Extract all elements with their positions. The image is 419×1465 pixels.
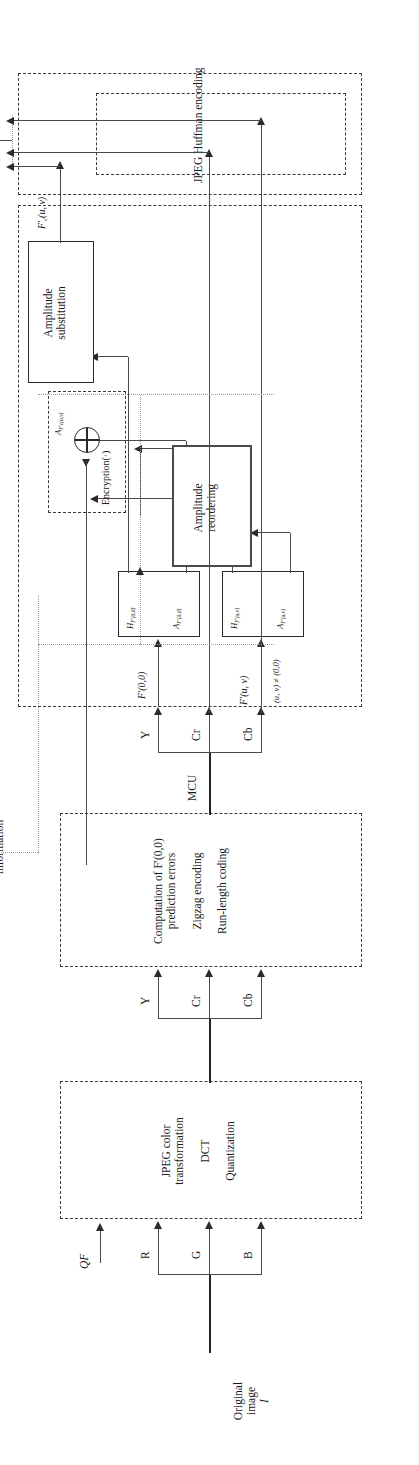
ycc-arrow-cb-1 bbox=[257, 969, 265, 977]
output-stem bbox=[0, 140, 12, 141]
signal-a-enc-label: AF'c(u,v) bbox=[54, 413, 64, 435]
chroma-cb-riser bbox=[12, 120, 261, 121]
signal-h-dc-base: H bbox=[125, 623, 135, 629]
entropy-prep-line-4: Run-length coding bbox=[216, 848, 228, 934]
ycc-label-cb-1: Cb bbox=[242, 994, 255, 1007]
ycc-label-cr-2: Cr bbox=[190, 730, 203, 742]
dc-input-line bbox=[158, 645, 159, 707]
ycc-branch-y-1 bbox=[158, 975, 159, 1019]
channel-label-r: R bbox=[139, 1251, 152, 1259]
entropy-prep-line-3: Zigzag encoding bbox=[191, 853, 203, 930]
signal-f-ac-text: F'(u, v) bbox=[238, 676, 249, 705]
signal-f-dc-label: F'(0,0) bbox=[136, 672, 147, 699]
original-image-line bbox=[209, 1275, 211, 1353]
signal-fc-out-label: F'c(u, v) bbox=[36, 197, 48, 229]
ycc-label-y-1: Y bbox=[139, 997, 152, 1005]
jpeg-frontend-line-3: DCT bbox=[199, 1140, 211, 1163]
jpeg-frontend-line-1: JPEG color bbox=[160, 1125, 172, 1178]
signal-h-dc-label: HF'(0,0) bbox=[126, 608, 136, 629]
jpeg-frontend-line-2: transformation bbox=[173, 1117, 185, 1185]
channel-label-g: G bbox=[190, 1251, 203, 1259]
chroma-cb-bypass-line bbox=[261, 121, 262, 713]
original-image-label: Original image I bbox=[232, 1355, 271, 1447]
mcu-branch-y bbox=[158, 713, 159, 753]
chroma-cr-bypass-line bbox=[209, 153, 210, 713]
output-bus-arrow-cb bbox=[6, 117, 14, 125]
signal-fc-out-sub: c bbox=[41, 218, 48, 221]
rgb-branch-b bbox=[261, 1227, 262, 1275]
dc-h-line bbox=[128, 357, 129, 573]
chroma-cb-bypass-arrow bbox=[257, 117, 265, 125]
rgb-arrow-b bbox=[257, 1221, 265, 1229]
chroma-bypass-block bbox=[96, 93, 346, 175]
chroma-cr-bypass-arrow bbox=[205, 149, 213, 157]
signal-a-enc-base: A bbox=[53, 430, 63, 435]
signal-a-ac-sub: F'(u,v) bbox=[280, 609, 286, 624]
qf-arrow bbox=[96, 1223, 104, 1231]
entropy-prep-line-1: Computation of F'(0,0) bbox=[152, 838, 164, 944]
ycc-branch-cb-1 bbox=[261, 975, 262, 1019]
mcu-bus-trunk bbox=[209, 753, 211, 815]
signal-a-dc-sub: F'(0,0) bbox=[176, 609, 182, 624]
figure-canvas: Original image I R G B QF JPEG color tra… bbox=[0, 0, 419, 1465]
signal-a-enc-sub: F'c(u,v) bbox=[58, 413, 64, 430]
amplitude-reordering-label: Amplitude reordering bbox=[192, 449, 218, 567]
quality-factor-label: QF bbox=[78, 1254, 91, 1269]
mcu-branch-cb bbox=[261, 713, 262, 753]
xor-gate bbox=[74, 427, 100, 453]
ycc-bus-trunk bbox=[209, 1019, 211, 1083]
rgb-branch-r bbox=[158, 1227, 159, 1275]
reorder-output-riser bbox=[140, 448, 174, 449]
crypto-internal-dotted-arrow bbox=[136, 567, 144, 575]
signal-a-ac-label: AF'(u,v) bbox=[276, 609, 286, 629]
output-bus-arrow-main bbox=[6, 163, 14, 171]
dc-h-riser bbox=[96, 356, 128, 357]
rgb-arrow-g bbox=[205, 1221, 213, 1229]
entropy-prep-line-2: prediction errors bbox=[165, 853, 177, 929]
signal-f-ac-condition: (u, v) ≠ (0,0) bbox=[272, 659, 282, 703]
size-information-label: Size information bbox=[0, 799, 6, 895]
chroma-cr-riser bbox=[12, 152, 209, 153]
signal-a-dc-label: AF'(0,0) bbox=[172, 609, 182, 629]
ycc-arrow-y-1 bbox=[154, 969, 162, 977]
ycc-label-cb-2: Cb bbox=[242, 728, 255, 741]
rgb-branch-g bbox=[209, 1227, 210, 1275]
signal-h-ac-label: HF'(u,v) bbox=[230, 608, 240, 629]
signal-h-dc-sub: F'(0,0) bbox=[130, 608, 136, 623]
dc-input-arrow bbox=[154, 639, 162, 647]
ac-a-line bbox=[290, 533, 291, 573]
crypto-internal-dotted-3 bbox=[140, 395, 141, 645]
ycc-label-cr-1: Cr bbox=[190, 996, 203, 1008]
prng-feed-line bbox=[86, 463, 87, 865]
amplitude-substitution-label: Amplitude substitution bbox=[42, 243, 68, 383]
rgb-arrow-r bbox=[154, 1221, 162, 1229]
ycc-branch-cr-1 bbox=[209, 975, 210, 1019]
signal-a-dc-base: A bbox=[171, 624, 181, 629]
entropy-prep-label: Computation of F'(0,0) prediction errors… bbox=[152, 815, 229, 967]
crypto-internal-dotted-1 bbox=[38, 644, 274, 645]
crypto-internal-dotted-2 bbox=[38, 394, 274, 395]
signal-h-ac-sub: F'(u,v) bbox=[234, 608, 240, 623]
output-bus-left-edge bbox=[12, 166, 60, 167]
encryption-label: Encryption(·) bbox=[100, 451, 111, 505]
channel-label-b: B bbox=[242, 1251, 255, 1259]
signal-fc-out-args: (u, v) bbox=[36, 197, 47, 218]
ycc-arrow-cr-1 bbox=[205, 969, 213, 977]
original-image-symbol: I bbox=[258, 1399, 270, 1403]
signal-fc-out-base: F' bbox=[36, 221, 47, 229]
original-image-text: Original image bbox=[232, 1382, 257, 1420]
output-bus-arrow-cr bbox=[6, 149, 14, 157]
size-information-feed bbox=[38, 595, 39, 853]
jpeg-frontend-line-4: Quantization bbox=[224, 1121, 236, 1180]
qf-line bbox=[100, 1229, 101, 1263]
signal-f-ac-label: F'(u, v) bbox=[238, 676, 249, 705]
signal-a-ac-base: A bbox=[275, 624, 285, 629]
signal-h-ac-base: H bbox=[229, 623, 239, 629]
mcu-branch-cr bbox=[209, 713, 210, 753]
diagram-root: Original image I R G B QF JPEG color tra… bbox=[0, 0, 419, 1465]
mcu-label: MCU bbox=[186, 775, 199, 801]
ycc-label-y-2: Y bbox=[139, 731, 152, 739]
mcu-arrow-y bbox=[154, 707, 162, 715]
jpeg-frontend-label: JPEG color transformation DCT Quantizati… bbox=[160, 1083, 237, 1219]
